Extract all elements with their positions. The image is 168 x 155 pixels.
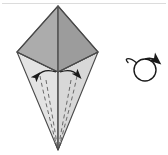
origami-diagram-figure: Origami fold step diagram A kite-base or… xyxy=(0,0,168,155)
turn-over-tail xyxy=(126,59,136,63)
turn-over-loop xyxy=(134,59,156,81)
origami-diagram-svg: Origami fold step diagram xyxy=(0,0,168,155)
